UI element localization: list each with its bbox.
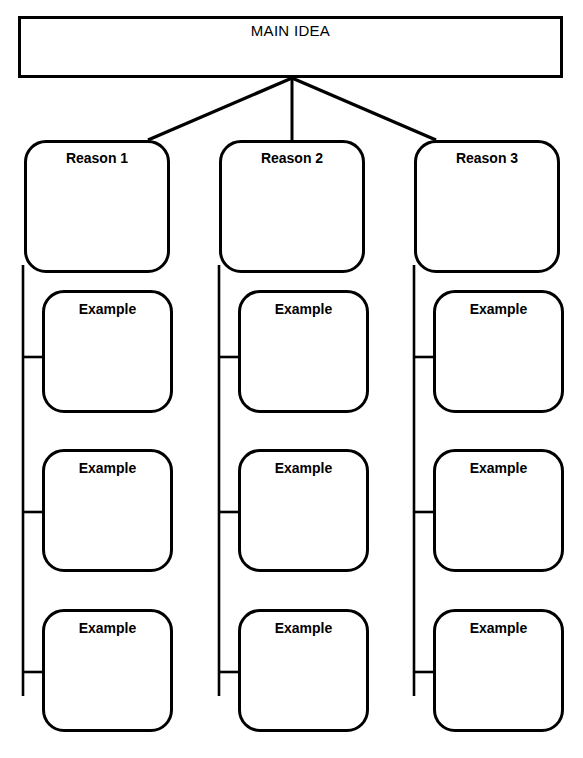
connector-main-to-reason-1 xyxy=(148,78,292,140)
example-box-1-3[interactable]: Example xyxy=(42,609,173,732)
example-box-2-3[interactable]: Example xyxy=(238,609,369,732)
main-idea-box[interactable]: MAIN IDEA xyxy=(18,16,563,78)
example-label-1-2: Example xyxy=(45,460,170,476)
example-label-2-2: Example xyxy=(241,460,366,476)
reason-label-1: Reason 1 xyxy=(27,150,167,166)
example-box-3-3[interactable]: Example xyxy=(433,609,564,732)
reason-label-2: Reason 2 xyxy=(222,150,362,166)
reason-box-1[interactable]: Reason 1 xyxy=(24,140,170,273)
example-label-3-3: Example xyxy=(436,620,561,636)
example-box-1-2[interactable]: Example xyxy=(42,449,173,572)
example-box-2-2[interactable]: Example xyxy=(238,449,369,572)
example-box-3-1[interactable]: Example xyxy=(433,290,564,413)
example-box-2-1[interactable]: Example xyxy=(238,290,369,413)
connector-main-to-reason-3 xyxy=(292,78,436,140)
main-idea-label: MAIN IDEA xyxy=(21,22,560,39)
example-label-3-2: Example xyxy=(436,460,561,476)
example-box-3-2[interactable]: Example xyxy=(433,449,564,572)
reason-box-3[interactable]: Reason 3 xyxy=(414,140,560,273)
example-label-1-1: Example xyxy=(45,301,170,317)
example-box-1-1[interactable]: Example xyxy=(42,290,173,413)
example-label-2-1: Example xyxy=(241,301,366,317)
example-label-3-1: Example xyxy=(436,301,561,317)
reason-label-3: Reason 3 xyxy=(417,150,557,166)
graphic-organizer-page: FIGURE 5 MAIN IDEA xyxy=(0,0,583,758)
example-label-2-3: Example xyxy=(241,620,366,636)
example-label-1-3: Example xyxy=(45,620,170,636)
reason-box-2[interactable]: Reason 2 xyxy=(219,140,365,273)
cut-off-caption: FIGURE 5 xyxy=(6,0,306,3)
